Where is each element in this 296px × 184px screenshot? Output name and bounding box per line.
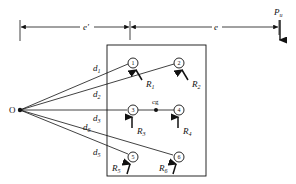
distance-label-d6: d6 — [83, 122, 91, 133]
svg-text:1: 1 — [132, 60, 135, 66]
svg-text:6: 6 — [178, 154, 181, 160]
cg-point — [154, 108, 158, 112]
distance-label-d2: d2 — [93, 89, 101, 100]
bolt-group-diagram: e' e Pu O d1 d2 d3 d6 d5 1 2 3 — [0, 0, 296, 184]
origin-label: O — [9, 105, 16, 115]
dimension-line: e' e — [20, 20, 279, 41]
reaction-arrow-r2 — [182, 70, 188, 80]
reaction-label-r6: R6 — [158, 163, 168, 174]
distance-label-d3: d3 — [93, 113, 101, 124]
reaction-arrow-r6 — [173, 164, 176, 174]
origin-point — [18, 108, 22, 112]
reaction-labels: R1 R2 R3 R4 R5 R6 — [111, 79, 201, 174]
svg-text:4: 4 — [178, 107, 181, 113]
reaction-label-r1: R1 — [145, 79, 155, 90]
svg-text:2: 2 — [178, 60, 181, 66]
bolt-3: 3 — [128, 105, 138, 115]
radial-distance-lines — [20, 64, 174, 155]
bolt-5: 5 — [128, 152, 138, 162]
load-label: Pu — [273, 7, 283, 18]
e-label: e — [214, 22, 218, 32]
e-prime-label: e' — [83, 22, 90, 32]
reaction-label-r3: R3 — [136, 126, 146, 137]
reaction-arrow-r5 — [127, 164, 130, 174]
distance-label-d5: d5 — [93, 147, 101, 158]
distance-label-d1: d1 — [93, 63, 101, 74]
svg-text:5: 5 — [132, 154, 135, 160]
load-arrow-pu: Pu — [273, 7, 283, 40]
svg-text:3: 3 — [132, 107, 135, 113]
bolt-2: 2 — [174, 58, 184, 68]
reaction-label-r2: R2 — [191, 79, 201, 90]
bolt-6: 6 — [174, 152, 184, 162]
bolt-1: 1 — [128, 58, 138, 68]
bolt-4: 4 — [174, 105, 184, 115]
reaction-label-r4: R4 — [182, 126, 192, 137]
cg-label: cg — [152, 98, 159, 106]
reaction-label-r5: R5 — [111, 163, 121, 174]
